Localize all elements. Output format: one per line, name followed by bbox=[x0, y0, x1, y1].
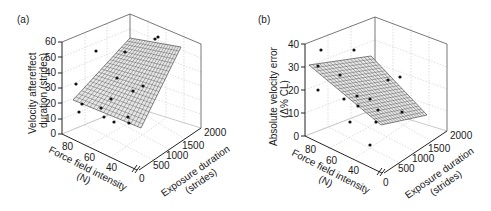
data-point bbox=[376, 108, 379, 111]
svg-text:0: 0 bbox=[293, 131, 299, 142]
svg-text:duration (strides): duration (strides) bbox=[38, 53, 49, 128]
data-point bbox=[368, 97, 371, 100]
data-point bbox=[342, 97, 345, 100]
data-point bbox=[386, 78, 389, 81]
svg-text:0: 0 bbox=[50, 128, 56, 139]
data-point bbox=[77, 110, 80, 113]
svg-text:1000: 1000 bbox=[412, 153, 435, 164]
fitted-plane-b bbox=[309, 56, 427, 125]
data-point bbox=[338, 73, 341, 76]
data-point bbox=[316, 64, 319, 67]
data-point bbox=[109, 97, 112, 100]
chart-a: 0 10 20 30 40 50 60 80 60 40 0 500 1000 … bbox=[0, 0, 245, 211]
svg-text:0: 0 bbox=[383, 177, 389, 188]
svg-text:Velocity aftereffect: Velocity aftereffect bbox=[27, 52, 38, 134]
data-point bbox=[355, 94, 358, 97]
data-point bbox=[368, 143, 371, 146]
data-point bbox=[156, 35, 159, 38]
svg-text:2000: 2000 bbox=[204, 127, 227, 138]
data-point bbox=[316, 88, 319, 91]
svg-text:2000: 2000 bbox=[450, 130, 473, 141]
data-point bbox=[94, 49, 97, 52]
svg-text:500: 500 bbox=[398, 163, 415, 174]
svg-text:60: 60 bbox=[45, 36, 57, 47]
data-point bbox=[374, 120, 377, 123]
data-point bbox=[398, 75, 401, 78]
svg-text:40: 40 bbox=[288, 39, 300, 50]
data-point bbox=[80, 102, 83, 105]
data-point bbox=[127, 121, 130, 124]
svg-text:1500: 1500 bbox=[182, 140, 205, 151]
data-point bbox=[102, 115, 105, 118]
svg-text:30: 30 bbox=[288, 62, 300, 73]
data-point bbox=[99, 106, 102, 109]
svg-text:Absolute velocity error: Absolute velocity error bbox=[268, 46, 279, 146]
data-point bbox=[126, 115, 129, 118]
data-point bbox=[115, 76, 118, 79]
svg-text:0: 0 bbox=[139, 173, 145, 184]
data-point bbox=[348, 120, 351, 123]
data-point bbox=[141, 84, 144, 87]
data-point bbox=[123, 50, 126, 53]
panel-a: (a) bbox=[0, 0, 245, 211]
data-point bbox=[352, 48, 355, 51]
chart-b: 0 10 20 30 40 80 60 40 0 500 1000 1500 2… bbox=[245, 0, 491, 211]
svg-text:1000: 1000 bbox=[166, 150, 189, 161]
data-point bbox=[356, 104, 359, 107]
data-point bbox=[319, 48, 322, 51]
data-point bbox=[153, 37, 156, 40]
svg-text:1500: 1500 bbox=[428, 143, 451, 154]
data-point bbox=[131, 89, 134, 92]
svg-text:500: 500 bbox=[153, 160, 170, 171]
panel-b: (b) bbox=[245, 0, 490, 211]
data-point bbox=[400, 110, 403, 113]
fitted-plane-a bbox=[73, 38, 181, 128]
data-point bbox=[112, 120, 115, 123]
svg-text:(Δ% CL): (Δ% CL) bbox=[279, 80, 290, 118]
data-point bbox=[74, 82, 77, 85]
